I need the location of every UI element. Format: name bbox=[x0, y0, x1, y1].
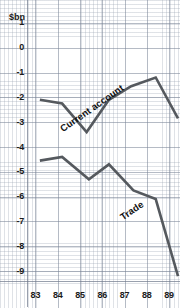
x-axis-tick-label: 84 bbox=[53, 291, 63, 300]
chart-container: $bn 10-1-2-3-4-5-6-7-8-9 Current account… bbox=[0, 0, 180, 308]
x-axis-tick-label: 87 bbox=[120, 291, 130, 300]
chart-series-layer bbox=[0, 0, 180, 308]
x-axis-tick-labels: 83848586878889 bbox=[0, 282, 180, 308]
x-axis-tick-label: 88 bbox=[142, 291, 152, 300]
series-line-trade bbox=[40, 157, 178, 276]
x-axis-tick-label: 83 bbox=[31, 291, 41, 300]
x-axis-tick-label: 86 bbox=[97, 291, 107, 300]
x-axis-tick-label: 89 bbox=[164, 291, 174, 300]
x-axis-tick-label: 85 bbox=[75, 291, 85, 300]
